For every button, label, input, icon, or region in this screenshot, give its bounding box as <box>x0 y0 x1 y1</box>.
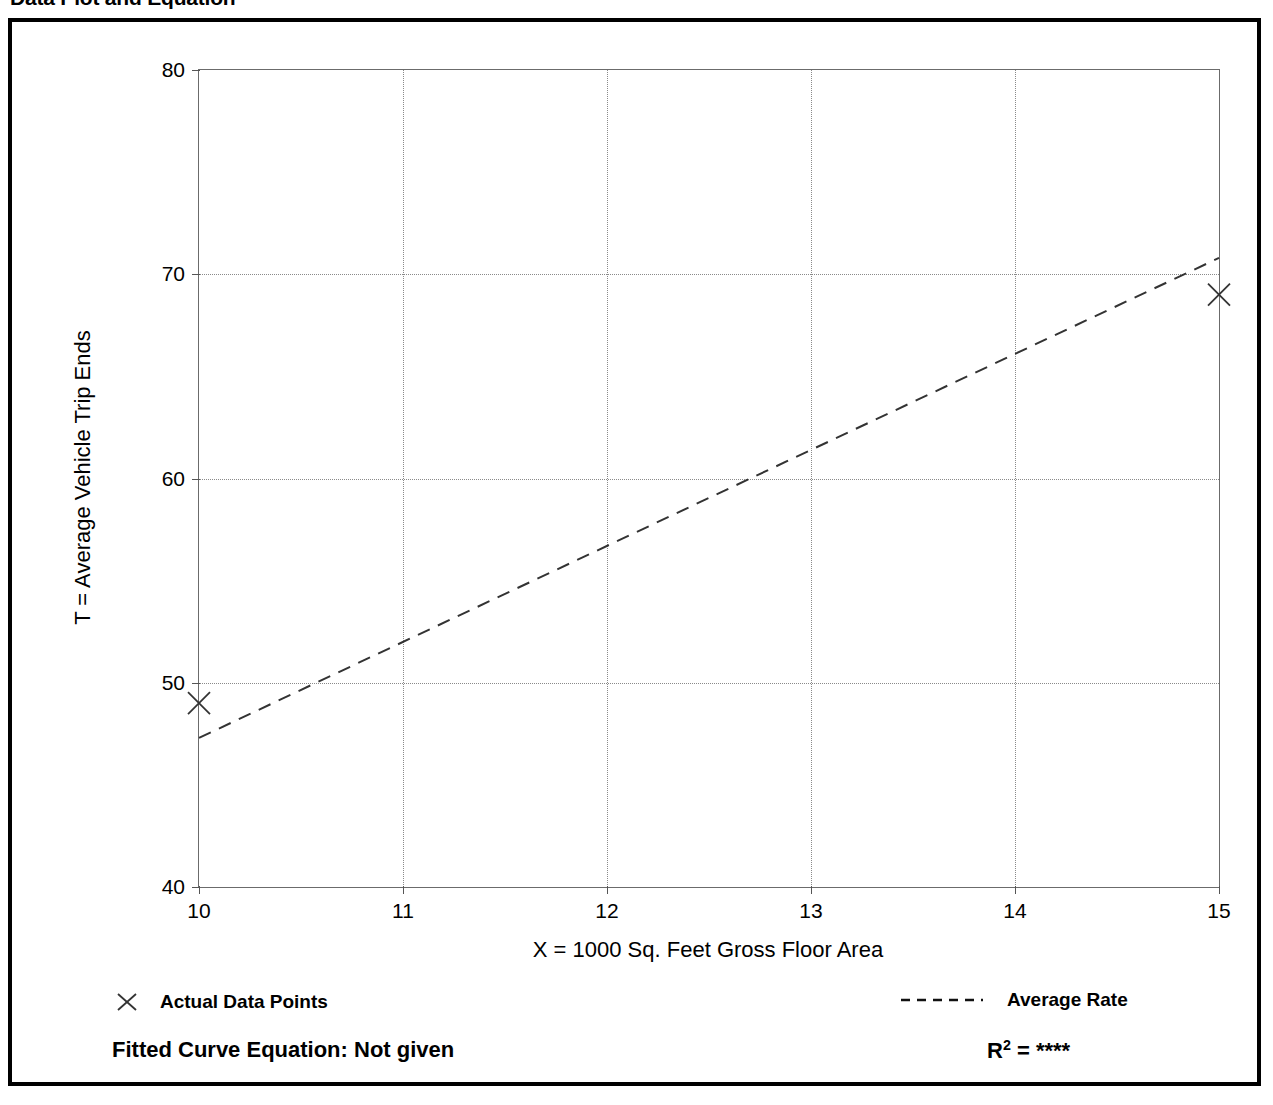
legend-item-average-rate: Average Rate <box>899 989 1128 1011</box>
x-marker-icon <box>112 989 142 1015</box>
y-axis-title: T = Average Vehicle Trip Ends <box>66 69 100 886</box>
data-point-marker <box>188 692 210 714</box>
r-squared-equals: = <box>1011 1038 1036 1063</box>
r-squared-value: **** <box>1036 1038 1070 1063</box>
y-axis-tick-label: 70 <box>162 262 185 286</box>
x-axis-tick-label: 10 <box>187 899 210 923</box>
fitted-curve-equation: Fitted Curve Equation: Not given <box>112 1037 454 1063</box>
x-axis-tick <box>1015 886 1016 894</box>
x-axis-tick-label: 14 <box>1003 899 1026 923</box>
x-axis-tick <box>607 886 608 894</box>
y-axis-tick-label: 80 <box>162 58 185 82</box>
y-axis-tick-label: 60 <box>162 467 185 491</box>
r-squared-symbol: R <box>987 1038 1003 1063</box>
legend-item-actual-data-points: Actual Data Points <box>112 989 328 1015</box>
chart-legend: Actual Data Points Average Rate <box>12 989 1265 1029</box>
series-overlay <box>199 70 1219 887</box>
y-axis-tick-label: 40 <box>162 875 185 899</box>
dashed-line-icon <box>899 993 985 1007</box>
r-squared-statistic: R2 = **** <box>987 1037 1070 1064</box>
page-header: Data Plot and Equation <box>0 0 1273 16</box>
x-axis-tick <box>811 886 812 894</box>
data-point-marker <box>1208 284 1230 306</box>
x-axis-tick-label: 13 <box>799 899 822 923</box>
x-axis-tick <box>403 886 404 894</box>
x-axis-tick-label: 11 <box>392 899 414 923</box>
x-axis-tick-label: 12 <box>595 899 618 923</box>
legend-label-average-rate: Average Rate <box>1007 989 1128 1011</box>
x-axis-title: X = 1000 Sq. Feet Gross Floor Area <box>198 937 1218 963</box>
average-rate-line <box>199 258 1219 738</box>
x-axis-tick <box>199 886 200 894</box>
y-axis-tick-label: 50 <box>162 671 185 695</box>
x-axis-tick-label: 15 <box>1207 899 1230 923</box>
legend-label-actual-data-points: Actual Data Points <box>160 991 328 1013</box>
r-squared-exponent: 2 <box>1003 1037 1011 1053</box>
x-axis-tick <box>1219 886 1220 894</box>
equation-row: Fitted Curve Equation: Not given R2 = **… <box>12 1037 1265 1077</box>
page-title: Data Plot and Equation <box>10 0 235 10</box>
plot-area: 4050607080101112131415 <box>198 69 1220 888</box>
chart-card: T = Average Vehicle Trip Ends 4050607080… <box>8 18 1261 1086</box>
